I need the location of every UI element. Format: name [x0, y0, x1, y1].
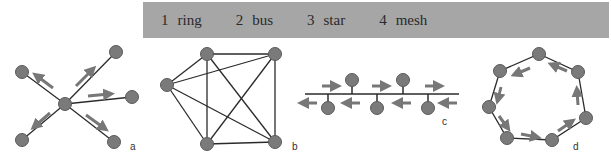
bus-topology-figure — [305, 86, 459, 102]
mesh-topology-figure — [167, 54, 275, 144]
figure-label-a: a — [130, 141, 136, 152]
star-topology-figure — [22, 52, 132, 142]
ring-arrows — [498, 65, 578, 137]
figure-label-b: b — [292, 141, 298, 152]
topology-diagrams: a b — [0, 0, 611, 162]
star-nodes — [16, 46, 139, 149]
figure-label-d: d — [573, 141, 579, 152]
figure-label-c: c — [442, 116, 447, 127]
mesh-nodes — [161, 48, 282, 151]
